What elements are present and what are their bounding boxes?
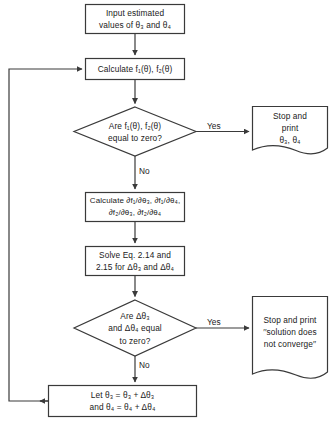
connector-feedback-loop [9, 69, 82, 401]
node-shape-decision-delta-zero [74, 300, 196, 356]
node-shape-stop-print-theta [253, 107, 328, 154]
node-shape-calculate-partials [86, 193, 185, 222]
node-shape-calculate-f [86, 59, 185, 80]
node-shape-update-theta [49, 386, 197, 417]
node-shape-input-values [86, 5, 185, 34]
node-shape-solve-equations [86, 247, 185, 276]
flowchart-connectors-layer [0, 0, 333, 426]
flowchart-canvas: Input estimated values of θ₃ and θ₄ Calc… [0, 0, 333, 426]
node-shape-stop-print-diverge [253, 297, 328, 379]
node-shape-decision-f-zero [74, 107, 196, 156]
